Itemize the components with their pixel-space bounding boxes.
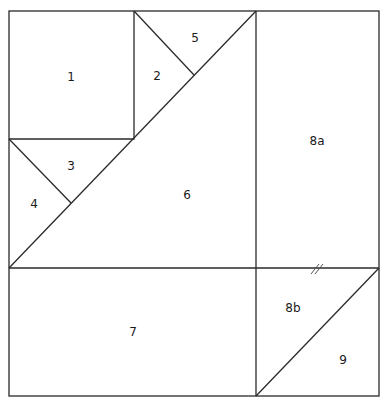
piece-8b-9-diagonal [256,268,379,396]
piece-3-4-seam [9,139,71,203]
piece-label-8a: 8a [310,134,325,148]
piece-label-5: 5 [191,31,199,45]
piece-label-4: 4 [30,197,38,211]
piece-label-2: 2 [153,69,161,83]
piece-label-6: 6 [183,188,191,202]
piece-label-1: 1 [67,70,75,84]
piece-2-5-seam [134,11,194,75]
piece-label-8b: 8b [285,301,300,315]
piece-label-9: 9 [339,353,347,367]
piece-label-3: 3 [67,159,75,173]
seam-mark-icon [311,264,323,274]
piece-label-7: 7 [129,325,137,339]
outer-frame [9,11,379,396]
quilt-block-diagram: 1 2 5 3 4 6 8a 7 8b 9 [0,0,385,405]
